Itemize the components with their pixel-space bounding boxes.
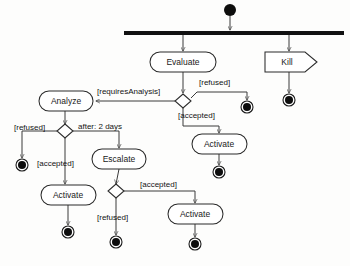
decision-after-escalate[interactable]: [108, 184, 124, 198]
activity-label-escalate: Escalate: [103, 154, 136, 164]
edge-decision3-accepted-to-activate: [124, 191, 195, 203]
final-node-activate-right: [189, 238, 201, 250]
guard-refused-escalate: [refused]: [97, 213, 128, 222]
activity-label-evaluate: Evaluate: [166, 57, 199, 67]
final-node-activate-mid: [213, 166, 225, 178]
activity-label-activate-mid: Activate: [204, 139, 235, 149]
guard-accepted-evaluate: [accepted]: [178, 111, 215, 120]
final-node-activate-left: [62, 226, 74, 238]
guard-accepted-analyze: [accepted]: [37, 159, 74, 168]
activity-node-analyze[interactable]: Analyze: [39, 91, 93, 111]
edge-decision2-to-escalate: [73, 131, 119, 148]
activity-label-activate-right: Activate: [180, 209, 211, 219]
fork-bar: [124, 31, 344, 35]
guard-refused-analyze: [refused]: [14, 123, 45, 132]
edge-decision-refused-to-final: [191, 92, 247, 100]
activity-node-activate-mid[interactable]: Activate: [192, 134, 247, 154]
signal-label-kill: Kill: [281, 57, 292, 67]
activity-label-analyze: Analyze: [51, 96, 82, 106]
activity-diagram-canvas: Evaluate Kill Analyze Escalate Activate …: [0, 0, 350, 266]
decision-after-evaluate[interactable]: [175, 94, 191, 108]
decision-after-analyze[interactable]: [57, 124, 73, 138]
edge-escalate-to-decision3: [116, 169, 119, 184]
guard-after-two-days: after: 2 days: [78, 122, 122, 131]
diagram-svg: Evaluate Kill Analyze Escalate Activate …: [0, 0, 350, 266]
guard-requires-analysis: [requiresAnalysis]: [97, 87, 160, 96]
activity-label-activate-left: Activate: [53, 190, 84, 200]
final-node-refused-evaluate: [241, 101, 253, 113]
initial-node: [224, 4, 236, 16]
edge-decision2-refused-to-final: [22, 131, 57, 158]
activity-node-evaluate[interactable]: Evaluate: [150, 52, 216, 72]
guard-accepted-escalate: [accepted]: [140, 180, 177, 189]
signal-node-kill[interactable]: Kill: [265, 52, 317, 72]
activity-node-activate-left[interactable]: Activate: [41, 185, 96, 205]
activity-node-activate-right[interactable]: Activate: [168, 204, 223, 224]
final-node-refused-analyze: [16, 159, 28, 171]
guard-refused-evaluate: [refused]: [199, 78, 230, 87]
final-node-kill: [283, 94, 295, 106]
activity-node-escalate[interactable]: Escalate: [92, 149, 146, 169]
final-node-refused-escalate: [110, 236, 122, 248]
